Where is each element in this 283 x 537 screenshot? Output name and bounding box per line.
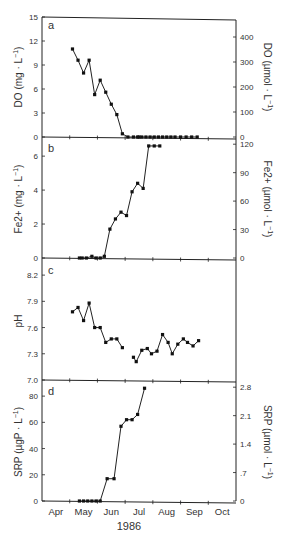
right-y-axis-label: SRP (µmol · L−1) bbox=[262, 405, 274, 479]
data-point bbox=[191, 344, 194, 347]
data-point bbox=[140, 349, 143, 352]
right-y-tick-label: 200 bbox=[240, 83, 254, 92]
data-point bbox=[147, 144, 150, 147]
right-y-tick-label: 400 bbox=[240, 33, 254, 42]
y-axis-label: pH bbox=[13, 315, 24, 328]
data-point bbox=[197, 339, 200, 342]
data-point bbox=[88, 59, 91, 62]
data-point bbox=[82, 71, 85, 74]
month-label: Sep bbox=[186, 506, 203, 517]
y-axis-label: DO (mg · L−1) bbox=[12, 47, 24, 108]
ph-series-1 bbox=[71, 301, 124, 349]
data-point bbox=[153, 144, 156, 147]
data-point bbox=[104, 341, 107, 344]
data-point bbox=[78, 499, 81, 502]
right-y-tick-label: 120 bbox=[240, 140, 254, 149]
y-tick-label: 6 bbox=[34, 152, 39, 161]
month-label: Jun bbox=[104, 506, 119, 517]
data-point bbox=[132, 356, 135, 359]
data-point bbox=[130, 418, 133, 421]
month-label: Aug bbox=[158, 506, 175, 517]
month-label: Jul bbox=[133, 506, 145, 517]
data-point bbox=[71, 47, 74, 50]
right-y-tick-label: 300 bbox=[240, 58, 254, 67]
right-y-tick-label: .7 bbox=[240, 469, 247, 478]
y-tick-label: 7.9 bbox=[27, 297, 39, 306]
month-label: Oct bbox=[215, 506, 230, 517]
data-point bbox=[94, 499, 97, 502]
y-tick-label: 80 bbox=[29, 392, 38, 401]
data-point bbox=[115, 113, 118, 116]
y-tick-label: 7.0 bbox=[27, 376, 39, 385]
data-point bbox=[99, 326, 102, 329]
data-point bbox=[142, 187, 145, 190]
data-point bbox=[125, 418, 128, 421]
y-axis-label: Fe2+ (mg · L−1) bbox=[12, 165, 24, 234]
data-point bbox=[150, 352, 153, 355]
data-point bbox=[179, 135, 182, 138]
month-label: Apr bbox=[48, 506, 63, 517]
y-tick-label: 12 bbox=[29, 37, 38, 46]
y-tick-label: 0 bbox=[34, 254, 39, 263]
data-point bbox=[182, 337, 185, 340]
data-point bbox=[155, 350, 158, 353]
panel-d: 0204060800.71.42.12.8dSRP (µgP · L−1)SRP… bbox=[12, 383, 274, 506]
y-tick-label: 7.3 bbox=[27, 350, 39, 359]
data-point bbox=[104, 91, 107, 94]
data-point bbox=[115, 337, 118, 340]
data-point bbox=[136, 413, 139, 416]
do-series bbox=[71, 47, 199, 138]
data-point bbox=[171, 352, 174, 355]
y-tick-label: 15 bbox=[29, 13, 38, 22]
data-point bbox=[112, 477, 115, 480]
right-y-tick-label: 60 bbox=[240, 197, 249, 206]
x-axis-months: AprMayJunJulAugSepOct bbox=[48, 506, 229, 517]
data-point bbox=[158, 144, 161, 147]
right-y-axis-label: Fe2+ (µmol · L−1) bbox=[262, 161, 274, 238]
fe-series bbox=[78, 144, 162, 259]
data-point bbox=[99, 499, 102, 502]
data-point bbox=[185, 135, 188, 138]
data-point bbox=[140, 135, 143, 138]
right-y-tick-label: 2.1 bbox=[240, 412, 252, 421]
y-tick-label: 60 bbox=[29, 418, 38, 427]
panel-letter: c bbox=[48, 264, 54, 276]
data-point bbox=[78, 256, 81, 259]
data-point bbox=[76, 59, 79, 62]
data-point bbox=[165, 135, 168, 138]
data-point bbox=[94, 256, 97, 259]
data-point bbox=[76, 306, 79, 309]
data-point bbox=[119, 211, 122, 214]
data-point bbox=[130, 190, 133, 193]
data-point bbox=[121, 346, 124, 349]
data-point bbox=[86, 499, 89, 502]
data-point bbox=[167, 341, 170, 344]
y-tick-label: 4 bbox=[34, 186, 39, 195]
data-point bbox=[103, 255, 106, 258]
panel-b: 02460306090120bFe2+ (mg · L−1)Fe2+ (µmol… bbox=[12, 140, 274, 263]
y-tick-label: 20 bbox=[29, 471, 38, 480]
y-tick-label: 8.2 bbox=[27, 271, 39, 280]
srp-series bbox=[78, 387, 146, 503]
data-point bbox=[110, 103, 113, 106]
data-point bbox=[126, 135, 129, 138]
right-y-tick-label: 100 bbox=[240, 108, 254, 117]
data-point bbox=[99, 79, 102, 82]
panel-letter: d bbox=[48, 385, 54, 397]
right-y-tick-label: 0 bbox=[240, 497, 245, 506]
data-point bbox=[114, 217, 117, 220]
data-point bbox=[146, 347, 149, 350]
data-point bbox=[90, 255, 93, 258]
data-point bbox=[157, 135, 160, 138]
right-y-tick-label: 0 bbox=[240, 254, 245, 263]
data-point bbox=[137, 135, 140, 138]
y-tick-label: 3 bbox=[34, 109, 39, 118]
data-point bbox=[90, 499, 93, 502]
data-point bbox=[161, 135, 164, 138]
data-point bbox=[82, 319, 85, 322]
panel-letter: a bbox=[48, 19, 55, 31]
data-point bbox=[161, 333, 164, 336]
data-point bbox=[186, 341, 189, 344]
right-y-tick-label: 30 bbox=[240, 226, 249, 235]
data-point bbox=[143, 387, 146, 390]
